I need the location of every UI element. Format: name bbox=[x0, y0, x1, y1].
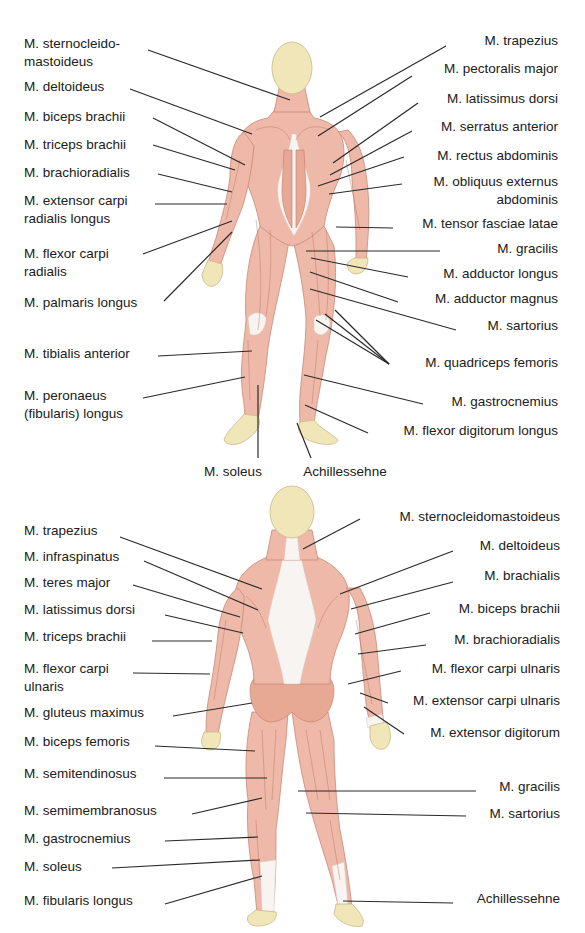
label-m-tibialis-anterior: M. tibialis anterior bbox=[24, 345, 130, 363]
label-m-gastrocnemius: M. gastrocnemius bbox=[451, 393, 558, 411]
label-line-text: (fibularis) longus bbox=[24, 405, 123, 423]
leader-line bbox=[158, 351, 252, 356]
label-m-extensor-carpi-ulnaris: M. extensor carpi ulnaris bbox=[413, 692, 560, 710]
leader-line bbox=[318, 76, 412, 136]
label-line-text: M. extensor carpi bbox=[24, 192, 128, 210]
label-m-fibularis-longus: M. fibularis longus bbox=[24, 892, 133, 910]
label-line-text: M. deltoideus bbox=[480, 537, 560, 555]
label-m-quadriceps-femoris: M. quadriceps femoris bbox=[425, 354, 558, 372]
back-right-foot bbox=[334, 904, 363, 927]
label-line-text: M. extensor digitorum bbox=[430, 724, 560, 742]
label-m-extensor-carpi-radialis-longus: M. extensor carpiradialis longus bbox=[24, 192, 128, 228]
label-m-extensor-digitorum: M. extensor digitorum bbox=[430, 724, 560, 742]
label-m-flexor-carpi-radialis: M. flexor carpiradialis bbox=[24, 245, 109, 281]
label-line-text: M. flexor carpi ulnaris bbox=[432, 660, 560, 678]
label-m-pectoralis-major: M. pectoralis major bbox=[444, 60, 558, 78]
label-m-triceps-brachii: M. triceps brachii bbox=[24, 136, 126, 154]
label-line-text: M. sartorius bbox=[487, 317, 558, 335]
label-line-text: mastoideus bbox=[24, 53, 120, 71]
label-line-text: M. latissimus dorsi bbox=[447, 90, 558, 108]
label-line-text: M. adductor magnus bbox=[435, 290, 558, 308]
label-m-flexor-carpi-ulnaris: M. flexor carpi ulnaris bbox=[432, 660, 560, 678]
label-m-biceps-brachii: M. biceps brachii bbox=[24, 108, 125, 126]
label-line-text: M. triceps brachii bbox=[24, 136, 126, 154]
front-left-foot bbox=[224, 414, 260, 445]
back-left-achilles bbox=[260, 860, 276, 912]
label-line-text: M. gracilis bbox=[499, 778, 560, 796]
label-line-text: radialis bbox=[24, 263, 109, 281]
leader-line bbox=[351, 582, 453, 609]
back-left-hand bbox=[201, 732, 220, 750]
label-line-text: M. flexor digitorum longus bbox=[403, 422, 558, 440]
label-m-triceps-brachii: M. triceps brachii bbox=[24, 628, 126, 646]
label-m-gracilis: M. gracilis bbox=[497, 240, 558, 258]
leader-line bbox=[325, 314, 389, 364]
label-line-text: M. quadriceps femoris bbox=[425, 354, 558, 372]
label-line-text: M. biceps femoris bbox=[24, 733, 130, 751]
front-left-hand bbox=[202, 260, 223, 286]
label-line-text: M. sartorius bbox=[489, 805, 560, 823]
label-m-rectus-abdominis: M. rectus abdominis bbox=[437, 147, 558, 165]
leader-line bbox=[343, 901, 453, 903]
label-m-latissimus-dorsi: M. latissimus dorsi bbox=[447, 90, 558, 108]
label-line-text: M. flexor carpi bbox=[24, 245, 109, 263]
label-m-serratus-anterior: M. serratus anterior bbox=[441, 118, 558, 136]
leader-line bbox=[143, 377, 245, 398]
muscle-diagram: M. sternocleido-mastoideusM. deltoideusM… bbox=[0, 0, 585, 933]
label-line-text: M. sternocleidomastoideus bbox=[399, 508, 560, 526]
leader-line bbox=[165, 837, 258, 841]
label-line-text: M. gracilis bbox=[497, 240, 558, 258]
leader-line bbox=[153, 145, 235, 170]
leader-line bbox=[336, 227, 393, 228]
label-m-biceps-brachii: M. biceps brachii bbox=[459, 600, 560, 618]
label-line-text: M. teres major bbox=[24, 574, 110, 592]
leader-line bbox=[133, 585, 240, 617]
label-line-text: M. latissimus dorsi bbox=[24, 601, 135, 619]
label-achillessehne: Achillessehne bbox=[285, 463, 405, 481]
label-line-text: M. peronaeus bbox=[24, 387, 123, 405]
label-m-sartorius: M. sartorius bbox=[487, 317, 558, 335]
label-m-gluteus-maximus: M. gluteus maximus bbox=[24, 704, 144, 722]
leader-line bbox=[158, 174, 232, 192]
label-m-latissimus-dorsi: M. latissimus dorsi bbox=[24, 601, 135, 619]
label-line-text: M. soleus bbox=[24, 858, 82, 876]
label-line-text: M. gastrocnemius bbox=[24, 830, 131, 848]
label-m-brachialis: M. brachialis bbox=[484, 567, 560, 585]
label-line-text: M. tibialis anterior bbox=[24, 345, 130, 363]
label-m-biceps-femoris: M. biceps femoris bbox=[24, 733, 130, 751]
label-line-text: M. palmaris longus bbox=[24, 294, 137, 312]
label-line-text: M. brachioradialis bbox=[24, 164, 130, 182]
label-line-text: M. biceps brachii bbox=[24, 108, 125, 126]
label-m-sternocleidomastoideus: M. sternocleidomastoideus bbox=[399, 508, 560, 526]
label-m-sartorius: M. sartorius bbox=[489, 805, 560, 823]
label-line-text: M. triceps brachii bbox=[24, 628, 126, 646]
label-line-text: M. extensor carpi ulnaris bbox=[413, 692, 560, 710]
label-line-text: M. trapezius bbox=[484, 32, 558, 50]
label-m-infraspinatus: M. infraspinatus bbox=[24, 548, 119, 566]
label-m-obliquus-externus-abdominis: M. obliquus externusabdominis bbox=[433, 173, 558, 209]
leader-line bbox=[130, 89, 252, 134]
label-m-gracilis: M. gracilis bbox=[499, 778, 560, 796]
front-head bbox=[272, 42, 312, 94]
label-line-text: M. fibularis longus bbox=[24, 892, 133, 910]
label-line-text: Achillessehne bbox=[477, 890, 560, 908]
label-line-text: M. sternocleido- bbox=[24, 35, 120, 53]
leader-line bbox=[133, 673, 210, 674]
label-line-text: M. soleus bbox=[173, 463, 293, 481]
label-line-text: M. semimembranosus bbox=[24, 802, 157, 820]
label-m-flexor-digitorum-longus: M. flexor digitorum longus bbox=[403, 422, 558, 440]
label-m-gastrocnemius: M. gastrocnemius bbox=[24, 830, 131, 848]
label-m-semitendinosus: M. semitendinosus bbox=[24, 765, 137, 783]
back-right-hand bbox=[370, 722, 391, 749]
label-line-text: M. tensor fasciae latae bbox=[422, 215, 558, 233]
label-achillessehne: Achillessehne bbox=[477, 890, 560, 908]
leader-line bbox=[304, 375, 423, 404]
label-line-text: M. biceps brachii bbox=[459, 600, 560, 618]
label-line-text: M. infraspinatus bbox=[24, 548, 119, 566]
label-m-soleus: M. soleus bbox=[173, 463, 293, 481]
label-m-semimembranosus: M. semimembranosus bbox=[24, 802, 157, 820]
label-m-peronaeus-fibularis-longus: M. peronaeus(fibularis) longus bbox=[24, 387, 123, 423]
leader-line bbox=[153, 118, 245, 165]
label-line-text: M. brachialis bbox=[484, 567, 560, 585]
label-line-text: M. deltoideus bbox=[24, 78, 104, 96]
